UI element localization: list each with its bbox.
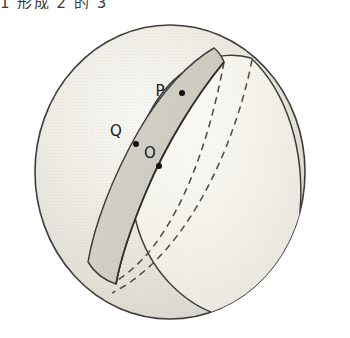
point-P-dot bbox=[179, 90, 185, 96]
figure-root: 1 形成 2 的 3 bbox=[0, 0, 350, 338]
sphere-diagram: P Q O bbox=[0, 0, 350, 338]
point-O-dot bbox=[156, 163, 162, 169]
point-Q-label: Q bbox=[110, 122, 122, 140]
point-P-label: P bbox=[155, 82, 164, 100]
point-Q-dot bbox=[133, 141, 139, 147]
point-O-label: O bbox=[144, 144, 156, 162]
